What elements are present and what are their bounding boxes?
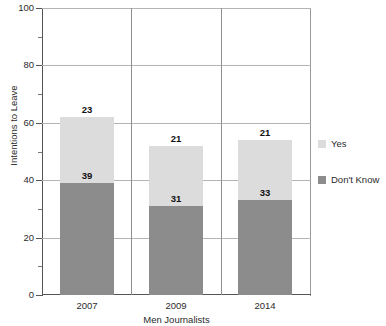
legend-label: Don't Know bbox=[331, 174, 379, 186]
data-label-yes-2014: 21 bbox=[238, 128, 292, 138]
x-tick-label-2007: 2007 bbox=[42, 300, 132, 311]
legend-swatch-icon bbox=[318, 176, 326, 184]
y-tick-label-100: 100 bbox=[4, 3, 34, 13]
y-tick-label-wrap-0: 0 bbox=[0, 290, 34, 300]
legend-label: Yes bbox=[331, 138, 347, 150]
plot-area: 392331213321 bbox=[42, 8, 310, 295]
y-tick-label-wrap-60: 60 bbox=[0, 118, 34, 128]
legend-swatch-icon bbox=[318, 140, 326, 148]
bar-group-2014[interactable]: 3321 bbox=[238, 8, 292, 295]
data-label-yes-2007: 23 bbox=[60, 105, 114, 115]
y-tick-label-20: 20 bbox=[4, 233, 34, 243]
y-tick-label-wrap-80: 80 bbox=[0, 60, 34, 70]
legend: YesDon't Know bbox=[318, 138, 386, 210]
x-tick-label-2014: 2014 bbox=[220, 300, 310, 311]
x-axis-label: Men Journalists bbox=[42, 314, 311, 325]
bar-group-2009[interactable]: 3121 bbox=[149, 8, 203, 295]
data-label-dont-know-2009: 31 bbox=[149, 194, 203, 204]
bar-segment-dont-know-2009[interactable] bbox=[149, 206, 203, 295]
x-tick-label-2009: 2009 bbox=[131, 300, 221, 311]
y-tick-label-wrap-100: 100 bbox=[0, 3, 34, 13]
data-label-dont-know-2014: 33 bbox=[238, 188, 292, 198]
y-tick-label-60: 60 bbox=[4, 118, 34, 128]
legend-item-don-t-know[interactable]: Don't Know bbox=[318, 174, 386, 186]
y-tick-label-wrap-40: 40 bbox=[0, 175, 34, 185]
bar-group-2007[interactable]: 3923 bbox=[60, 8, 114, 295]
y-tick-0 bbox=[36, 295, 42, 296]
y-tick-label-0: 0 bbox=[4, 290, 34, 300]
y-tick-label-80: 80 bbox=[4, 60, 34, 70]
data-label-dont-know-2007: 39 bbox=[60, 171, 114, 181]
stacked-bar-chart: Intentions to Leave 020406080100 3923312… bbox=[0, 0, 386, 326]
legend-item-yes[interactable]: Yes bbox=[318, 138, 386, 150]
plot-frame-right bbox=[310, 8, 311, 296]
y-tick-label-40: 40 bbox=[4, 175, 34, 185]
bar-segment-dont-know-2007[interactable] bbox=[60, 183, 114, 295]
bar-segment-dont-know-2014[interactable] bbox=[238, 200, 292, 295]
data-label-yes-2009: 21 bbox=[149, 134, 203, 144]
y-tick-label-wrap-20: 20 bbox=[0, 233, 34, 243]
